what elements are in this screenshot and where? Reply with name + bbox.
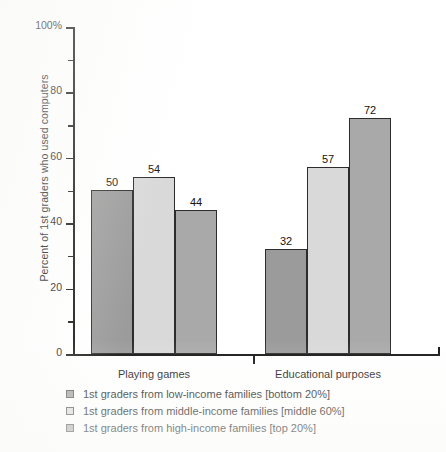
- chart-legend: 1st graders from low-income families [bo…: [66, 385, 426, 436]
- y-tick-0: 0: [66, 354, 73, 356]
- legend-label-middle-income: 1st graders from middle-income families …: [83, 405, 345, 417]
- x-axis-group-separator-tick: [253, 355, 255, 364]
- bar-value-games-low-income: 50: [106, 176, 118, 188]
- y-tick-label-100: 100%: [35, 19, 62, 31]
- bar-chart-figure: Percent of 1st graders who used computer…: [0, 0, 446, 452]
- legend-swatch-middle-income: [66, 407, 74, 415]
- y-tick-minor-90: [68, 60, 73, 62]
- bar-value-education-middle-income: 57: [322, 153, 334, 165]
- bar-value-education-low-income: 32: [280, 235, 292, 247]
- bar-value-games-middle-income: 54: [148, 163, 160, 175]
- legend-label-low-income: 1st graders from low-income families [bo…: [83, 388, 330, 400]
- y-axis-line: [73, 27, 75, 356]
- legend-item-high-income: 1st graders from high-income families [t…: [66, 419, 426, 436]
- bar-education-high-income: 72: [349, 118, 391, 354]
- y-tick-20: 20: [66, 289, 73, 291]
- y-tick-minor-30: [68, 256, 73, 258]
- bar-games-high-income: 44: [175, 210, 217, 354]
- y-axis-title: Percent of 1st graders who used computer…: [38, 48, 50, 308]
- bar-education-low-income: 32: [265, 249, 307, 354]
- bar-education-middle-income: 57: [307, 167, 349, 354]
- y-tick-label-40: 40: [50, 215, 62, 227]
- bar-value-education-high-income: 72: [364, 104, 376, 116]
- x-axis-line: [73, 354, 440, 356]
- legend-item-middle-income: 1st graders from middle-income families …: [66, 402, 426, 419]
- y-tick-label-80: 80: [50, 84, 62, 96]
- bar-games-low-income: 50: [91, 190, 133, 354]
- y-tick-60: 60: [66, 158, 73, 160]
- y-tick-80: 80: [66, 92, 73, 94]
- legend-swatch-high-income: [66, 424, 74, 432]
- y-tick-label-0: 0: [56, 346, 62, 358]
- legend-label-high-income: 1st graders from high-income families [t…: [83, 422, 316, 434]
- y-tick-label-20: 20: [50, 281, 62, 293]
- bar-value-games-high-income: 44: [190, 196, 202, 208]
- group-label-educational-purposes: Educational purposes: [265, 368, 391, 380]
- y-tick-100: 100%: [66, 27, 73, 29]
- y-tick-40: 40: [66, 223, 73, 225]
- y-tick-minor-70: [68, 125, 73, 127]
- group-label-playing-games: Playing games: [91, 368, 217, 380]
- bar-games-middle-income: 54: [133, 177, 175, 354]
- y-tick-label-60: 60: [50, 150, 62, 162]
- x-axis-left-endcap: [73, 347, 75, 356]
- legend-swatch-low-income: [66, 390, 74, 398]
- legend-item-low-income: 1st graders from low-income families [bo…: [66, 385, 426, 402]
- y-tick-minor-50: [68, 191, 73, 193]
- y-tick-minor-10: [68, 321, 73, 323]
- x-axis-right-endcap: [438, 347, 440, 356]
- plot-area: 0 20 40 60 80 100% 50 54 44: [73, 27, 440, 355]
